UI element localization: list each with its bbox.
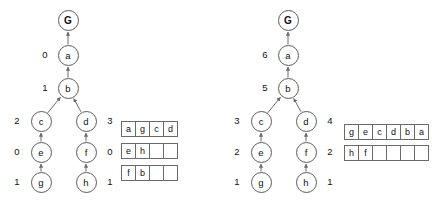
frontier-table-row-1: eh <box>121 143 178 159</box>
tree-node-c: c <box>31 111 52 132</box>
node-value-c: 3 <box>231 116 243 126</box>
node-value-h: 1 <box>324 177 336 187</box>
table-cell: c <box>373 125 387 140</box>
table-cell: a <box>415 125 429 140</box>
node-value-c: 2 <box>11 116 23 126</box>
tree-node-d: d <box>296 111 317 132</box>
tree-node-h: h <box>296 172 317 193</box>
tree-node-b: b <box>278 78 299 99</box>
tree-edges-layer <box>0 0 216 202</box>
tree-edge-d-to-b <box>74 99 81 112</box>
table-cell: b <box>136 166 150 181</box>
node-value-f: 2 <box>324 147 336 157</box>
node-value-a: 0 <box>39 50 51 60</box>
tree-node-G: G <box>278 10 299 31</box>
frontier-table-row-1: hf <box>344 145 429 161</box>
tree-node-e: e <box>251 142 272 163</box>
node-value-g: 1 <box>11 177 23 187</box>
tree-node-b: b <box>58 78 79 99</box>
search-tree-left: Gabcdefgh01230011agcdehfb <box>0 0 216 202</box>
frontier-table-row-2: fb <box>121 165 178 181</box>
tree-node-h: h <box>76 172 97 193</box>
node-value-a: 6 <box>259 50 271 60</box>
tree-node-e: e <box>31 142 52 163</box>
table-row: agcd <box>122 122 178 137</box>
table-cell <box>415 146 429 161</box>
table-cell: a <box>122 122 136 137</box>
table-cell <box>164 166 178 181</box>
table-cell: b <box>401 125 415 140</box>
tree-node-a: a <box>58 45 79 66</box>
tree-node-f: f <box>296 142 317 163</box>
frontier-table-row-0: agcd <box>121 121 178 137</box>
node-value-d: 3 <box>104 116 116 126</box>
tree-edge-c-to-b <box>268 97 281 113</box>
tree-node-g: g <box>31 172 52 193</box>
tree-edge-c-to-b <box>48 97 61 113</box>
table-row: fb <box>122 166 178 181</box>
tree-node-c: c <box>251 111 272 132</box>
table-cell <box>150 166 164 181</box>
table-cell: f <box>359 146 373 161</box>
tree-node-f: f <box>76 142 97 163</box>
table-row: gecdba <box>345 125 429 140</box>
search-tree-right: Gabcdefgh65342211gecdbahf <box>216 0 432 202</box>
table-cell <box>373 146 387 161</box>
tree-edges-layer <box>216 0 432 202</box>
node-value-e: 2 <box>231 147 243 157</box>
table-cell <box>164 144 178 159</box>
table-cell: g <box>136 122 150 137</box>
table-row: hf <box>345 146 429 161</box>
table-cell <box>387 146 401 161</box>
frontier-table-row-0: gecdba <box>344 124 429 140</box>
table-cell: d <box>164 122 178 137</box>
figure-canvas: Gabcdefgh01230011agcdehfbGabcdefgh653422… <box>0 0 432 202</box>
node-value-b: 1 <box>39 83 51 93</box>
tree-node-a: a <box>278 45 299 66</box>
tree-node-G: G <box>58 10 79 31</box>
node-value-b: 5 <box>259 83 271 93</box>
table-cell: d <box>387 125 401 140</box>
table-cell: h <box>345 146 359 161</box>
table-cell <box>401 146 415 161</box>
tree-node-d: d <box>76 111 97 132</box>
table-cell: f <box>122 166 136 181</box>
table-cell: e <box>122 144 136 159</box>
node-value-e: 0 <box>11 147 23 157</box>
node-value-g: 1 <box>231 177 243 187</box>
tree-edge-d-to-b <box>294 99 301 112</box>
table-cell: c <box>150 122 164 137</box>
table-cell: g <box>345 125 359 140</box>
node-value-d: 4 <box>324 116 336 126</box>
table-row: eh <box>122 144 178 159</box>
node-value-f: 0 <box>104 147 116 157</box>
table-cell: h <box>136 144 150 159</box>
tree-node-g: g <box>251 172 272 193</box>
table-cell: e <box>359 125 373 140</box>
node-value-h: 1 <box>104 177 116 187</box>
table-cell <box>150 144 164 159</box>
